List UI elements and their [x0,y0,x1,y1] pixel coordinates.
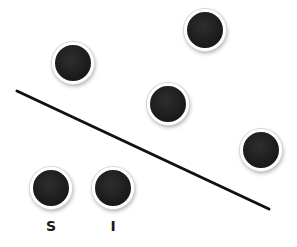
dot-c [147,83,189,125]
dot-label-s: S [46,218,56,234]
dot-d [240,129,282,171]
dot-s [30,167,72,209]
separator-line-svg [0,0,297,247]
diagram-canvas: SI [0,0,297,247]
dot-i [92,167,134,209]
dot-label-i: I [110,218,115,234]
dot-a [52,42,94,84]
dot-b [184,9,226,51]
